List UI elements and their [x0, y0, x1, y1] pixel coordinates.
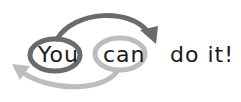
diagram-canvas: You can do it!	[0, 0, 241, 102]
word-you: You	[38, 44, 79, 66]
word-can: can	[103, 44, 146, 66]
word-do-it: do it!	[170, 44, 234, 66]
